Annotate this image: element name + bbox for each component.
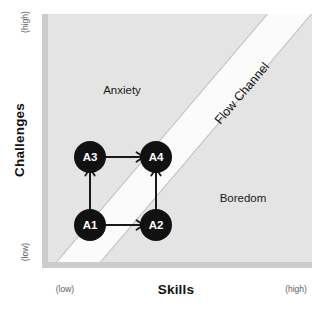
x-axis-low-label: (low) xyxy=(56,284,75,294)
flow-diagram-canvas: Anxiety Boredom Flow Channel xyxy=(0,0,327,313)
flow-channel-diagram: Anxiety Boredom Flow Channel xyxy=(0,0,327,313)
node-label: A4 xyxy=(149,151,164,163)
y-axis-high-label: (high) xyxy=(20,11,30,33)
y-axis-low-label: (low) xyxy=(20,243,30,262)
zone-label-anxiety: Anxiety xyxy=(103,84,141,96)
y-axis-title: Challenges xyxy=(12,103,27,177)
x-axis-bar xyxy=(42,262,312,268)
node-a1[interactable]: A1 xyxy=(74,209,106,241)
x-axis-title: Skills xyxy=(158,282,194,297)
zone-label-boredom: Boredom xyxy=(220,192,267,204)
node-a4[interactable]: A4 xyxy=(140,141,172,173)
node-a2[interactable]: A2 xyxy=(140,209,172,241)
node-a3[interactable]: A3 xyxy=(74,141,106,173)
y-axis-bar xyxy=(42,14,48,268)
node-label: A3 xyxy=(83,151,98,163)
node-label: A1 xyxy=(83,219,98,231)
x-axis-high-label: (high) xyxy=(285,284,307,294)
node-label: A2 xyxy=(149,219,164,231)
